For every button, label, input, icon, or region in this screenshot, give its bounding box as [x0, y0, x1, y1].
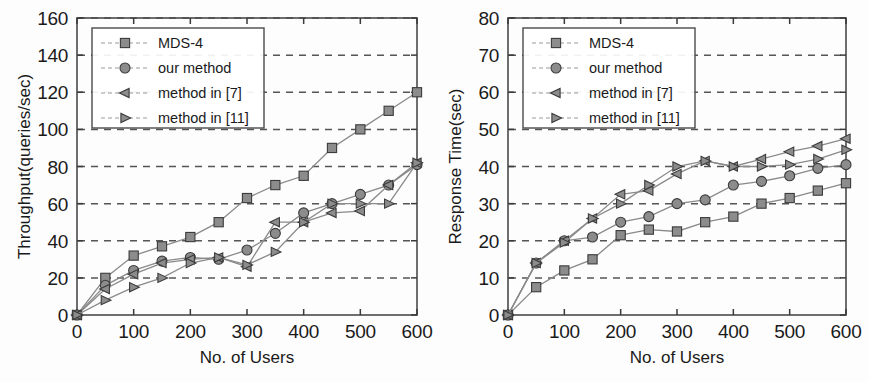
- square-marker: [616, 231, 625, 240]
- triangle-right-marker: [158, 273, 168, 282]
- y-tick-label: 30: [478, 194, 499, 215]
- y-tick-label: 60: [478, 82, 499, 103]
- legend-label: our method: [158, 60, 231, 76]
- square-marker: [412, 88, 421, 97]
- triangle-left-marker: [270, 218, 280, 227]
- square-marker: [757, 199, 766, 208]
- throughput-chart-svg: 0204060801001201401600100200300400500600…: [0, 0, 434, 382]
- square-marker: [672, 227, 681, 236]
- series-line: [77, 165, 417, 315]
- throughput-chart-panel: 0204060801001201401600100200300400500600…: [0, 0, 434, 382]
- x-tick-label: 500: [345, 321, 376, 342]
- series-circle: [72, 160, 422, 320]
- series-triangle-left: [71, 158, 421, 319]
- circle-marker: [785, 171, 795, 181]
- series-line: [77, 163, 417, 315]
- circle-marker: [841, 160, 851, 170]
- triangle-left-marker: [812, 141, 822, 150]
- chart-legend[interactable]: MDS-4our methodmethod in [7]method in [1…: [92, 28, 264, 128]
- triangle-right-marker: [130, 283, 140, 292]
- triangle-right-marker: [814, 154, 824, 163]
- circle-marker: [644, 212, 654, 222]
- legend-label: MDS-4: [589, 35, 634, 51]
- x-tick-label: 300: [662, 321, 693, 342]
- y-tick-label: 20: [47, 268, 68, 289]
- series-triangle-right: [73, 158, 423, 319]
- square-marker: [644, 225, 653, 234]
- square-marker: [120, 38, 129, 47]
- y-tick-label: 70: [478, 45, 499, 66]
- series-line: [77, 163, 417, 315]
- square-marker: [242, 193, 251, 202]
- x-tick-label: 0: [72, 321, 82, 342]
- square-marker: [271, 180, 280, 189]
- x-tick-label: 0: [503, 321, 513, 342]
- legend-label: our method: [589, 60, 662, 76]
- x-tick-label: 600: [402, 321, 433, 342]
- x-tick-labels: 0100200300400500600: [72, 321, 433, 342]
- triangle-right-marker: [101, 296, 111, 305]
- circle-marker: [757, 176, 767, 186]
- response-time-chart-svg: 010203040506070800100200300400500600No. …: [435, 0, 869, 382]
- x-tick-label: 300: [232, 321, 263, 342]
- x-tick-label: 200: [605, 321, 636, 342]
- square-marker: [186, 232, 195, 241]
- square-marker: [588, 255, 597, 264]
- circle-marker: [728, 180, 738, 190]
- x-tick-label: 500: [774, 321, 805, 342]
- y-axis-title: Throughput(queries/sec): [15, 74, 34, 259]
- x-tick-labels: 0100200300400500600: [503, 321, 862, 342]
- y-tick-label: 80: [47, 157, 68, 178]
- circle-marker: [672, 199, 682, 209]
- circle-marker: [299, 208, 309, 218]
- y-tick-label: 0: [58, 305, 68, 326]
- square-marker: [214, 218, 223, 227]
- y-tick-labels: 01020304050607080: [478, 8, 499, 326]
- square-marker: [129, 251, 138, 260]
- square-marker: [551, 38, 560, 47]
- circle-marker: [588, 232, 598, 242]
- legend-label: method in [7]: [158, 85, 242, 101]
- x-tick-label: 400: [288, 321, 319, 342]
- triangle-right-marker: [385, 199, 395, 208]
- x-tick-label: 400: [718, 321, 749, 342]
- square-marker: [729, 212, 738, 221]
- triangle-left-marker: [784, 147, 794, 156]
- x-tick-label: 600: [831, 321, 862, 342]
- x-axis-title: No. of Users: [630, 348, 724, 367]
- legend-label: method in [11]: [589, 110, 680, 126]
- y-axis-title: Response Time(sec): [446, 89, 465, 245]
- legend-label: method in [7]: [589, 85, 673, 101]
- square-marker: [841, 179, 850, 188]
- series-circle: [503, 160, 851, 320]
- chart-legend[interactable]: MDS-4our methodmethod in [7]method in [1…: [523, 28, 695, 128]
- circle-marker: [616, 217, 626, 227]
- legend-label: MDS-4: [158, 35, 203, 51]
- square-marker: [560, 266, 569, 275]
- y-tick-labels: 020406080100120140160: [37, 8, 68, 326]
- y-tick-label: 40: [478, 157, 499, 178]
- circle-marker: [242, 245, 252, 255]
- square-marker: [384, 106, 393, 115]
- y-tick-label: 0: [489, 305, 499, 326]
- y-tick-label: 140: [37, 45, 68, 66]
- x-tick-label: 100: [118, 321, 149, 342]
- y-tick-label: 60: [47, 194, 68, 215]
- square-marker: [299, 171, 308, 180]
- square-marker: [785, 193, 794, 202]
- y-tick-label: 10: [478, 268, 499, 289]
- figure-container: 0204060801001201401600100200300400500600…: [0, 0, 869, 382]
- x-axis-title: No. of Users: [200, 348, 294, 367]
- circle-marker: [355, 189, 365, 199]
- circle-marker: [551, 63, 561, 73]
- triangle-left-marker: [326, 208, 336, 217]
- y-tick-label: 160: [37, 8, 68, 29]
- triangle-right-marker: [786, 160, 796, 169]
- square-marker: [356, 125, 365, 134]
- y-tick-label: 50: [478, 119, 499, 140]
- triangle-right-marker: [271, 247, 281, 256]
- y-tick-label: 20: [478, 231, 499, 252]
- y-tick-label: 100: [37, 119, 68, 140]
- y-tick-label: 40: [47, 231, 68, 252]
- square-marker: [157, 242, 166, 251]
